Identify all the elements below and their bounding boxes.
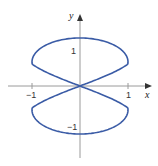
x-tick-label-neg1: −1 [26,90,36,100]
polar-curve-plot: −1 1 1 −1 x y [0,0,158,166]
y-axis-arrow-icon [77,14,83,21]
x-axis-label: x [144,89,150,100]
y-tick-label-1: 1 [71,46,76,56]
x-tick-label-1: 1 [126,90,131,100]
y-axis-label: y [68,10,74,21]
y-tick-label-neg1: −1 [67,122,77,132]
